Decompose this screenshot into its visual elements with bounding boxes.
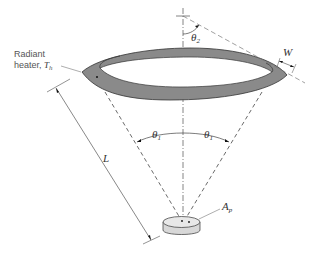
theta1-arrowhead-left [137, 139, 141, 142]
heater-label-line2: heater, Th [14, 60, 53, 74]
heater-label: Radiant heater, Th [14, 49, 53, 74]
heater-point-left [96, 76, 98, 78]
theta1-label-left: θ1 [152, 128, 161, 142]
length-dimension-line [56, 88, 151, 240]
width-ext-2 [292, 64, 296, 73]
width-arrow-a [279, 61, 283, 63]
heater-label-line1: Radiant [14, 49, 53, 60]
heater-leader-line [61, 66, 81, 72]
width-label: W [283, 46, 292, 58]
width-arrow-b [290, 65, 294, 67]
theta1-arrowhead-right [225, 139, 229, 142]
disk-center-point [181, 220, 183, 222]
area-label: Ap [222, 200, 232, 214]
theta1-label-right: θ1 [204, 128, 213, 142]
disk-point [188, 221, 190, 223]
view-line-left [105, 92, 180, 218]
length-label: L [103, 152, 109, 164]
length-extension-bottom [143, 236, 160, 244]
theta2-label: θ2 [191, 31, 200, 45]
area-leader-line [199, 209, 220, 219]
disk-top [163, 217, 200, 228]
length-extension-top [47, 79, 70, 92]
width-ext-1 [277, 58, 280, 67]
